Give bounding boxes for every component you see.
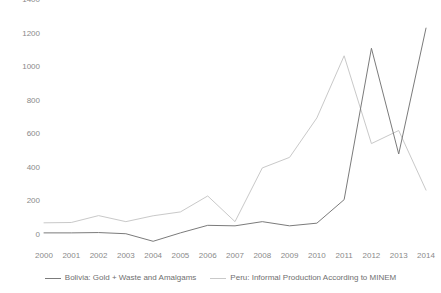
x-axis-tick-label: 2004	[144, 252, 162, 260]
y-axis-tick-label: 1200	[0, 30, 40, 38]
x-axis-tick-label: 2009	[281, 252, 299, 260]
y-axis-tick-label: 800	[0, 97, 40, 105]
x-axis-tick-label: 2002	[90, 252, 108, 260]
x-axis-tick-label: 2006	[199, 252, 217, 260]
x-axis-tick-label: 2001	[62, 252, 80, 260]
x-axis-tick-label: 2008	[253, 252, 271, 260]
x-axis-tick-label: 2003	[117, 252, 135, 260]
legend-line-swatch	[45, 278, 61, 279]
x-axis: 2000200120022003200420052006200720082009…	[44, 252, 426, 266]
y-axis-tick-label: 600	[0, 130, 40, 138]
series-line	[44, 56, 426, 223]
legend-entry[interactable]: Peru: Informal Production According to M…	[210, 274, 396, 282]
x-axis-tick-label: 2005	[172, 252, 190, 260]
x-axis-tick-label: 2012	[363, 252, 381, 260]
legend-label: Bolivia: Gold + Waste and Amalgams	[65, 274, 197, 282]
y-axis: 0200400600800100012001400	[0, 0, 40, 235]
y-axis-tick-label: 400	[0, 164, 40, 172]
chart-legend: Bolivia: Gold + Waste and AmalgamsPeru: …	[0, 270, 441, 286]
x-axis-tick-label: 2000	[35, 252, 53, 260]
x-axis-tick-label: 2010	[308, 252, 326, 260]
legend-entry[interactable]: Bolivia: Gold + Waste and Amalgams	[45, 274, 197, 282]
y-axis-tick-label: 200	[0, 197, 40, 205]
x-axis-tick-label: 2007	[226, 252, 244, 260]
x-axis-tick-label: 2013	[390, 252, 408, 260]
x-axis-tick-label: 2011	[336, 252, 353, 260]
y-axis-tick-label: 1000	[0, 63, 40, 71]
y-axis-tick-label: 0	[0, 231, 40, 239]
plot-area	[44, 13, 426, 248]
x-axis-tick-label: 2014	[417, 252, 435, 260]
legend-line-swatch	[210, 278, 226, 279]
legend-label: Peru: Informal Production According to M…	[230, 274, 396, 282]
series-layer	[44, 13, 426, 248]
y-axis-tick-label: 1400	[0, 0, 40, 4]
line-chart: 0200400600800100012001400 20002001200220…	[0, 0, 441, 293]
